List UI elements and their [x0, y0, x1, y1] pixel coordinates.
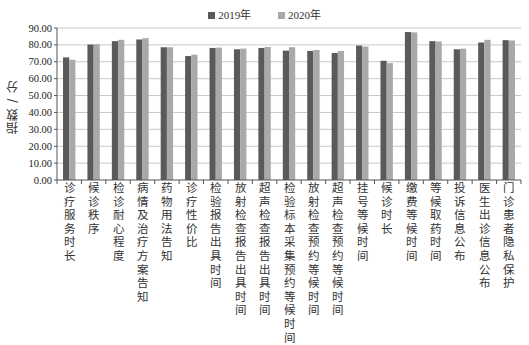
x-category-label: 检验标本采集预约等候时间	[282, 182, 296, 345]
y-tick-label: 50.00	[28, 90, 52, 101]
bar-2019年	[87, 45, 93, 180]
x-category-label: 医生出诊信息公布	[477, 182, 491, 291]
x-category-label: 门诊患者隐私保护	[502, 182, 516, 291]
bar-2019年	[332, 53, 338, 180]
bar-2019年	[258, 48, 264, 180]
x-category-label: 缴费等候时间	[404, 182, 418, 264]
x-category-label: 检诊耐心程度	[111, 182, 125, 264]
bar-2020年	[509, 40, 515, 180]
x-category-label: 放射检查报告出具时间	[233, 182, 247, 318]
bar-2020年	[338, 51, 344, 180]
bar-2020年	[240, 49, 246, 180]
bar-2020年	[167, 47, 173, 180]
bar-2020年	[94, 44, 100, 180]
bar-2020年	[436, 42, 442, 180]
bar-2020年	[313, 50, 319, 180]
y-tick-label: 20.00	[28, 141, 52, 152]
x-category-label: 诊疗性价比	[184, 182, 198, 250]
bar-2019年	[112, 41, 118, 180]
x-category-label: 挂号等候时间	[355, 182, 369, 264]
bar-2019年	[63, 57, 69, 180]
bar-2019年	[356, 46, 362, 180]
bar-2020年	[460, 49, 466, 180]
bar-2019年	[478, 43, 484, 180]
bar-2019年	[405, 32, 411, 180]
bar-2020年	[118, 40, 124, 180]
x-category-label: 病情及治疗方案告知	[135, 182, 149, 304]
bar-2019年	[136, 39, 142, 180]
x-category-label: 超声检查预约等候时间	[331, 182, 345, 318]
y-tick-label: 90.00	[28, 23, 52, 34]
x-category-label: 超声检查报告出具时间	[258, 182, 272, 318]
bar-2019年	[185, 56, 191, 180]
bar-2020年	[142, 38, 148, 180]
bar-2020年	[191, 55, 197, 180]
bar-2020年	[216, 48, 222, 180]
bar-2020年	[362, 47, 368, 180]
y-tick-label: 0.00	[34, 175, 52, 186]
bar-2019年	[307, 51, 313, 180]
y-tick-label: 10.00	[28, 158, 52, 169]
y-tick-label: 30.00	[28, 124, 52, 135]
y-tick-label: 70.00	[28, 56, 52, 67]
x-category-label: 检验报告出具时间	[209, 182, 223, 291]
x-category-label: 等候取药时间	[429, 182, 443, 264]
y-tick-label: 40.00	[28, 107, 52, 118]
bar-2020年	[289, 47, 295, 180]
y-tick-label: 80.00	[28, 39, 52, 50]
bar-2020年	[265, 47, 271, 180]
x-category-label: 投诉信息公布	[453, 182, 467, 264]
bar-2019年	[454, 49, 460, 180]
x-category-label: 诊疗服务时长	[62, 182, 76, 264]
x-category-label: 候诊时长	[380, 182, 394, 236]
bar-2020年	[69, 60, 75, 180]
x-category-label: 放射检查预约等候时间	[306, 182, 320, 318]
x-category-label: 药物用法告知	[160, 182, 174, 264]
bar-2019年	[161, 47, 167, 180]
bar-2019年	[283, 51, 289, 180]
bar-2019年	[429, 41, 435, 180]
bar-2019年	[234, 49, 240, 180]
y-tick-label: 60.00	[28, 73, 52, 84]
bar-2019年	[380, 61, 386, 180]
bar-2020年	[411, 32, 417, 180]
bar-2019年	[503, 40, 509, 180]
bar-2020年	[484, 40, 490, 180]
x-category-label: 候诊秩序	[87, 182, 101, 236]
bar-2020年	[387, 63, 393, 180]
bar-2019年	[210, 48, 216, 180]
